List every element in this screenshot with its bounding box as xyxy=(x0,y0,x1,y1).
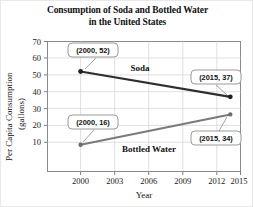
series-label-bottled-water: Bottled Water xyxy=(122,144,176,154)
callout-label-soda-2015: (2015, 37) xyxy=(199,73,233,82)
ytick-label-10: 10 xyxy=(33,137,42,147)
ytick-label-50: 50 xyxy=(33,70,42,80)
ytick-label-40: 40 xyxy=(33,87,42,97)
y-axis-title-line-1: Per Capita Consumption xyxy=(4,72,14,161)
y-axis-title-line-2: (gallons) xyxy=(16,98,26,130)
callout-label-water-2000: (2000, 16) xyxy=(76,118,110,127)
chart-plot: Per Capita Consumption (gallons) 70 60 5… xyxy=(1,1,253,207)
callout-label-water-2015: (2015, 34) xyxy=(199,134,233,143)
ytick-label-70: 70 xyxy=(33,37,42,47)
ytick-label-20: 20 xyxy=(33,120,42,130)
chart-figure: Consumption of Soda and Bottled Water in… xyxy=(0,0,253,207)
xtick-label-2003: 2003 xyxy=(106,176,123,186)
x-axis-title: Year xyxy=(136,190,153,200)
data-point-soda-2000 xyxy=(78,69,83,74)
data-point-water-2000 xyxy=(78,143,82,147)
xtick-label-2012: 2012 xyxy=(208,176,225,186)
xtick-label-2009: 2009 xyxy=(174,176,191,186)
data-point-water-2015 xyxy=(228,112,232,116)
series-label-soda: Soda xyxy=(130,63,150,73)
data-point-soda-2015 xyxy=(228,94,233,99)
xtick-label-2006: 2006 xyxy=(140,176,157,186)
xtick-label-2015: 2015 xyxy=(231,176,248,186)
callout-label-soda-2000: (2000, 52) xyxy=(76,46,110,55)
ytick-label-30: 30 xyxy=(33,104,42,114)
xtick-label-2000: 2000 xyxy=(72,176,89,186)
ytick-label-60: 60 xyxy=(33,53,42,63)
